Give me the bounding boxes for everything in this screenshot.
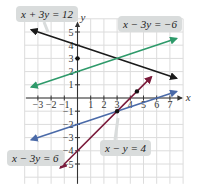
svg-text:−4: −4: [63, 145, 74, 156]
svg-text:1: 1: [69, 79, 74, 90]
svg-text:−2: −2: [46, 99, 57, 110]
svg-text:−3: −3: [63, 132, 74, 143]
svg-text:4: 4: [69, 40, 74, 51]
svg-text:5: 5: [141, 99, 146, 110]
label-line4: x − y = 4: [100, 140, 151, 156]
svg-text:−1: −1: [63, 106, 74, 117]
label-line2: x − 3y = −6: [118, 16, 182, 32]
label-line3: x − 3y = 6: [7, 150, 64, 166]
svg-text:2: 2: [101, 99, 106, 110]
svg-text:−3: −3: [33, 99, 44, 110]
svg-text:2: 2: [69, 66, 74, 77]
svg-text:5: 5: [69, 27, 74, 38]
svg-text:6: 6: [154, 99, 159, 110]
label-line1: x + 3y = 12: [16, 6, 78, 22]
svg-text:x: x: [185, 91, 191, 103]
svg-text:y: y: [80, 11, 86, 23]
svg-text:3: 3: [69, 53, 74, 64]
svg-text:7: 7: [167, 99, 172, 110]
svg-text:1: 1: [88, 99, 93, 110]
